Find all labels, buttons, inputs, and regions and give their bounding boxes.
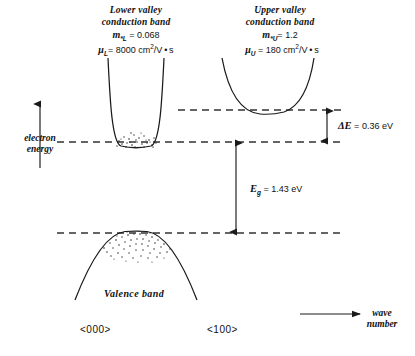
lower-valley-mass-equals: =	[129, 30, 134, 40]
lower-valley-mobility-unit-pre: cm	[138, 45, 150, 55]
upper-valley-mass-value: 1.2	[285, 30, 298, 40]
upper-valley-title-line1: Upper valley	[210, 5, 350, 17]
band-gap-symbol: E	[250, 183, 257, 194]
axis-indicators	[40, 104, 360, 314]
delta-e-value: 0.36 eV	[362, 121, 393, 131]
wave-number-axis-label-line2: number	[352, 319, 412, 330]
lower-valley-mobility: μL= 8000 cm2/V • s	[56, 41, 216, 60]
lower-valley-title-line1: Lower valley	[66, 5, 206, 17]
valence-band-label: Valence band	[104, 288, 164, 299]
wave-number-axis-label: wave number	[352, 308, 412, 330]
lower-valley-electron-dots	[116, 132, 156, 147]
delta-e-equals: =	[354, 121, 359, 131]
band-curves	[75, 58, 314, 300]
delta-e-symbol: ΔE	[338, 120, 352, 131]
lower-valley-mobility-unit-post: /V • s	[154, 45, 174, 55]
lower-valley-mobility-value: 8000	[116, 45, 136, 55]
lower-valley-mobility-equals: =	[108, 45, 113, 55]
upper-valley-title-line2: conduction band	[210, 17, 350, 29]
band-gap-equals: =	[264, 184, 269, 194]
measurement-arrows	[236, 111, 327, 232]
wave-number-axis-label-line1: wave	[352, 308, 412, 319]
lower-valley-title: Lower valley conduction band	[66, 5, 206, 28]
upper-valley-mobility-subscript: U	[251, 50, 256, 57]
valence-band-hole-dots	[103, 230, 171, 262]
delta-e-annotation: ΔE = 0.36 eV	[338, 120, 393, 131]
upper-valley-conduction-curve	[222, 58, 314, 114]
upper-valley-mobility-equals: =	[258, 45, 263, 55]
upper-valley-mobility-value: 180	[266, 45, 281, 55]
upper-valley-mass-symbol: m	[262, 29, 270, 40]
electron-energy-axis-label: electron energy	[2, 133, 78, 155]
electron-energy-axis-label-line1: electron	[2, 133, 78, 144]
electron-energy-axis-label-line2: energy	[2, 144, 78, 155]
k-point-tick-000: <000>	[80, 324, 111, 335]
band-gap-subscript: g	[257, 189, 261, 196]
lower-valley-mass-value: 0.068	[137, 30, 160, 40]
upper-valley-mobility-unit-pre: cm	[283, 45, 295, 55]
band-structure-diagram: Lower valley conduction band m*L = 0.068…	[0, 0, 415, 356]
upper-valley-mobility-unit-post: /V • s	[299, 45, 319, 55]
lower-valley-title-line2: conduction band	[66, 17, 206, 29]
band-gap-annotation: Eg = 1.43 eV	[250, 183, 302, 196]
upper-valley-mass-equals: =	[277, 30, 282, 40]
lower-valley-conduction-curve	[108, 58, 164, 148]
k-point-tick-100: <100>	[207, 324, 238, 335]
upper-valley-title: Upper valley conduction band	[210, 5, 350, 28]
band-gap-value: 1.43 eV	[271, 184, 302, 194]
energy-level-lines	[57, 110, 344, 233]
upper-valley-mobility: μU = 180 cm2/V • s	[202, 41, 362, 60]
